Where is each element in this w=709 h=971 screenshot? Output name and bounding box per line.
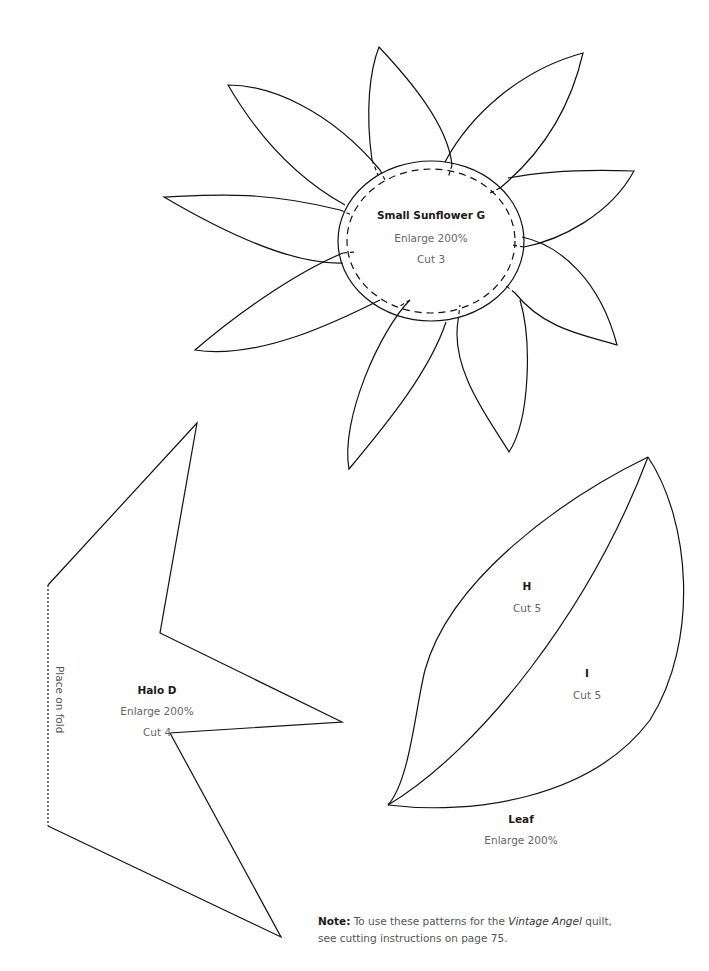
leaf-outline-upper [388,457,648,805]
petal [228,85,380,205]
petal [195,253,380,352]
halo-title: Halo D [137,684,176,696]
leaf-center-vein [388,457,648,805]
halo-enlarge: Enlarge 200% [120,705,193,717]
pattern-artwork [0,0,709,971]
petal [164,195,343,263]
leaf-title: Leaf [508,813,533,825]
leaf-piece-h-title: H [523,580,532,592]
petal [457,300,527,452]
petal [369,47,452,165]
leaf-piece-i-title: I [585,667,589,679]
petal [348,300,446,469]
petal [515,237,617,345]
sunflower-title: Small Sunflower G [377,209,485,221]
sunflower-enlarge: Enlarge 200% [394,232,467,244]
quilt-name: Vintage Angel [508,915,582,927]
sunflower-cut: Cut 3 [417,253,445,265]
leaf-enlarge: Enlarge 200% [484,834,557,846]
halo-fold-label: Place on fold [54,666,66,733]
petal [445,53,583,188]
leaf-outline-lower [388,457,684,808]
halo-pattern [48,423,342,937]
sunflower-pattern [164,47,634,469]
petal [508,170,634,247]
leaf-pattern [388,457,684,808]
note-text: Note: To use these patterns for the Vint… [318,913,618,947]
leaf-piece-h-cut: Cut 5 [513,602,541,614]
halo-cut: Cut 4 [143,726,171,738]
leaf-piece-i-cut: Cut 5 [573,689,601,701]
note-label: Note: [318,915,350,927]
